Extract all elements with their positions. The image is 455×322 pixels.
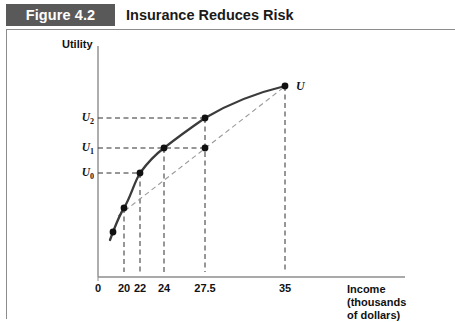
marker-point-27-5-on-curve	[202, 115, 209, 122]
marker-point-22-on-curve	[137, 170, 144, 177]
x-tick-label-24: 24	[158, 282, 170, 294]
y-axis-title: Utility	[62, 38, 93, 50]
guide-lines-vertical	[124, 86, 285, 272]
x-tick-label-22: 22	[134, 282, 146, 294]
marker-point-27-5-on-chord	[202, 145, 209, 152]
x-tick-label-0: 0	[95, 282, 101, 294]
marker-point-20-on-curve	[121, 205, 128, 212]
data-point-markers	[110, 83, 289, 236]
marker-point-35-on-curve	[282, 83, 289, 90]
y-tick-label-u1: U1	[72, 141, 94, 156]
marker-point-24-on-curve	[161, 145, 168, 152]
x-tick-label-35: 35	[279, 282, 291, 294]
y-tick-label-u2: U2	[72, 111, 94, 126]
marker-point-18-on-curve	[110, 229, 117, 236]
guide-lines-horizontal	[98, 118, 205, 173]
curve-label-u: U	[296, 79, 305, 94]
y-tick-label-u0: U0	[72, 166, 94, 181]
x-tick-label-27-5: 27.5	[194, 282, 215, 294]
x-axis-title: Income (thousands of dollars)	[347, 283, 406, 322]
utility-curve	[110, 86, 285, 240]
x-tick-label-20: 20	[118, 282, 130, 294]
